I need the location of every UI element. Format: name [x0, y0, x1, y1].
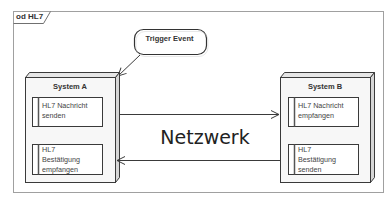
frame-label: od HL7 — [16, 12, 43, 21]
action-b2-line-1: HL7 — [298, 145, 336, 155]
system-b-title: System B — [280, 82, 370, 91]
action-b2-line-3: senden — [298, 165, 336, 175]
network-label: Netzwerk — [150, 126, 260, 148]
action-a1-line-2: senden — [42, 111, 88, 121]
system-a-title: System A — [25, 82, 115, 91]
action-b2-line-2: Bestätigung — [298, 155, 336, 165]
action-a1-line-1: HL7 Nachricht — [42, 101, 88, 111]
action-b2-label: HL7 Bestätigung senden — [298, 145, 336, 175]
trigger-event-label: Trigger Event — [133, 34, 206, 43]
action-b1-line-2: empfangen — [298, 111, 344, 121]
action-b1-label: HL7 Nachricht empfangen — [298, 101, 344, 121]
action-b1-line-1: HL7 Nachricht — [298, 101, 344, 111]
action-a2-line-1: HL7 — [42, 145, 80, 155]
action-a2-line-3: empfangen — [42, 165, 80, 175]
action-a1-label: HL7 Nachricht senden — [42, 101, 88, 121]
action-a2-line-2: Bestätigung — [42, 155, 80, 165]
action-a2-label: HL7 Bestätigung empfangen — [42, 145, 80, 175]
